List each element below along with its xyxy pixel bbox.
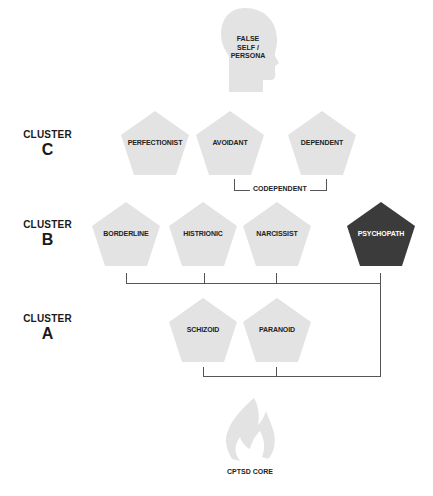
pentagon-label: PARANOID xyxy=(232,326,322,333)
cluster-letter: B xyxy=(20,231,75,249)
cluster-b-tick-histrionic xyxy=(204,273,205,283)
pentagon-histrionic: HISTRIONIC xyxy=(168,201,238,267)
pentagon-label: NARCISSIST xyxy=(232,230,322,237)
cluster-letter: A xyxy=(20,325,75,343)
cluster-c-label: CLUSTER C xyxy=(20,129,75,159)
pentagon-label: PSYCHOPATH xyxy=(336,230,426,237)
cluster-b-label: CLUSTER B xyxy=(20,219,75,249)
head-label-line-2: SELF / xyxy=(237,44,259,51)
pentagon-avoidant: AVOIDANT xyxy=(195,110,265,176)
pentagon-dependent: DEPENDENT xyxy=(287,110,357,176)
head-label-line-1: FALSE xyxy=(237,35,260,42)
pentagon-label: DEPENDENT xyxy=(277,139,367,146)
head-label-line-3: PERSONA xyxy=(231,52,266,59)
flame-icon xyxy=(214,397,286,463)
cluster-letter: C xyxy=(20,141,75,159)
codependent-label: CODEPENDENT xyxy=(250,185,310,192)
cluster-a-label: CLUSTER A xyxy=(20,313,75,343)
cluster-word: CLUSTER xyxy=(20,129,75,141)
cluster-b-tick-borderline xyxy=(126,273,127,283)
cluster-word: CLUSTER xyxy=(20,313,75,325)
pentagon-paranoid: PARANOID xyxy=(242,297,312,363)
cluster-a-bracket-line xyxy=(203,376,381,377)
pentagon-psychopath: PSYCHOPATH xyxy=(346,201,416,267)
pentagon-perfectionist: PERFECTIONIST xyxy=(120,110,190,176)
psychopath-connector-line xyxy=(380,273,381,377)
codependent-bracket-right xyxy=(326,179,327,191)
cluster-b-bracket-line xyxy=(126,283,381,284)
cptsd-core-label: CPTSD CORE xyxy=(210,468,290,475)
cluster-word: CLUSTER xyxy=(20,219,75,231)
pentagon-label: AVOIDANT xyxy=(185,139,275,146)
pentagon-narcissist: NARCISSIST xyxy=(242,201,312,267)
pentagon-borderline: BORDERLINE xyxy=(91,201,161,267)
cluster-b-tick-narcissist xyxy=(276,273,277,283)
pentagon-schizoid: SCHIZOID xyxy=(168,297,238,363)
false-self-label: FALSE SELF / PERSONA xyxy=(222,35,274,61)
